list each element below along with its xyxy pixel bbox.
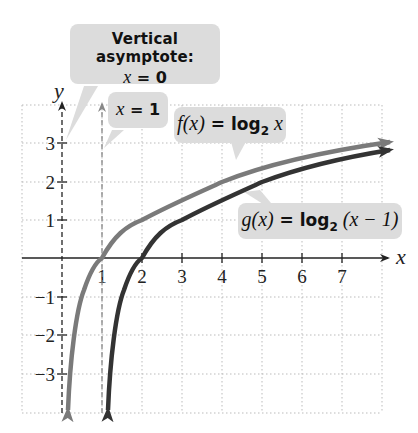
callout-asym0-eq: x = 0	[70, 67, 220, 88]
callout-asym0-title: Vertical asymptote:	[70, 30, 220, 66]
svg-text:7: 7	[337, 266, 347, 287]
svg-text:5: 5	[257, 266, 267, 287]
x-axis-label: x	[395, 244, 406, 269]
callout-asym1-eq: x = 1	[108, 98, 168, 120]
f-label-text: f(x) = log2 x	[174, 112, 286, 138]
callout-pointer-asym1	[104, 130, 124, 148]
svg-text:4: 4	[217, 266, 227, 287]
y-axis-label: y	[52, 78, 64, 103]
callout-pointer-asym0	[66, 86, 98, 140]
g-label-text: g(x) = log2 (x − 1)	[238, 208, 402, 234]
callout-vertical-asymptote-x0: Vertical asymptote: x = 0	[70, 24, 220, 84]
curve-g	[108, 150, 390, 410]
svg-text:6: 6	[297, 266, 307, 287]
svg-text:−1: −1	[35, 287, 55, 308]
svg-text:3: 3	[177, 266, 187, 287]
callout-g-label: g(x) = log2 (x − 1)	[238, 203, 402, 239]
svg-text:−2: −2	[35, 325, 55, 346]
svg-text:1: 1	[46, 210, 56, 231]
svg-text:2: 2	[137, 266, 147, 287]
svg-text:2: 2	[46, 172, 56, 193]
svg-text:3: 3	[46, 133, 56, 154]
svg-text:−3: −3	[35, 364, 55, 385]
y-tick-labels: 3 2 1 −1 −2 −3	[35, 133, 55, 385]
callout-asymptote-x1: x = 1	[108, 92, 168, 128]
callout-f-label: f(x) = log2 x	[174, 107, 286, 143]
